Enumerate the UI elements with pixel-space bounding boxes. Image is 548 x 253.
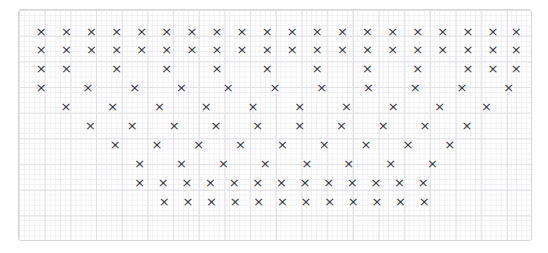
cross-x-marker: × bbox=[262, 43, 273, 56]
cross-x-marker: × bbox=[127, 119, 138, 132]
cross-x-marker: × bbox=[301, 194, 312, 207]
cross-x-marker: × bbox=[488, 43, 499, 56]
cross-x-marker: × bbox=[461, 119, 472, 132]
cross-x-marker: × bbox=[151, 137, 162, 150]
cross-x-marker: × bbox=[111, 62, 122, 75]
cross-x-marker: × bbox=[488, 24, 499, 37]
cross-x-marker: × bbox=[83, 81, 94, 94]
cross-x-marker: × bbox=[363, 81, 374, 94]
cross-x-marker: × bbox=[412, 43, 423, 56]
cross-x-marker: × bbox=[420, 119, 431, 132]
cross-x-marker: × bbox=[260, 156, 271, 169]
cross-x-marker: × bbox=[111, 43, 122, 56]
cross-x-marker: × bbox=[287, 24, 298, 37]
cross-x-marker: × bbox=[158, 175, 169, 188]
cross-x-marker: × bbox=[277, 194, 288, 207]
cross-x-marker: × bbox=[511, 24, 522, 37]
cross-x-marker: × bbox=[86, 43, 97, 56]
cross-x-marker: × bbox=[378, 119, 389, 132]
cross-x-marker: × bbox=[176, 156, 187, 169]
cross-x-marker: × bbox=[402, 137, 413, 150]
cross-x-marker: × bbox=[336, 119, 347, 132]
cross-x-marker: × bbox=[186, 24, 197, 37]
cross-x-marker: × bbox=[362, 62, 373, 75]
cross-x-marker: × bbox=[488, 62, 499, 75]
scatter-marker-layer: ××××××××××××××××××××××××××××××××××××××××… bbox=[19, 10, 531, 240]
cross-x-marker: × bbox=[134, 175, 145, 188]
cross-x-marker: × bbox=[186, 43, 197, 56]
cross-x-marker: × bbox=[437, 43, 448, 56]
cross-x-marker: × bbox=[161, 62, 172, 75]
cross-x-marker: × bbox=[387, 24, 398, 37]
cross-x-marker: × bbox=[201, 100, 212, 113]
cross-x-marker: × bbox=[437, 24, 448, 37]
cross-x-marker: × bbox=[388, 100, 399, 113]
cross-x-marker: × bbox=[348, 194, 359, 207]
cross-x-marker: × bbox=[387, 43, 398, 56]
cross-x-marker: × bbox=[181, 175, 192, 188]
cross-x-marker: × bbox=[385, 156, 396, 169]
cross-x-marker: × bbox=[229, 175, 240, 188]
cross-x-marker: × bbox=[457, 81, 468, 94]
cross-x-marker: × bbox=[161, 24, 172, 37]
cross-x-marker: × bbox=[262, 62, 273, 75]
cross-x-marker: × bbox=[169, 119, 180, 132]
cross-x-marker: × bbox=[110, 137, 121, 150]
cross-x-marker: × bbox=[36, 24, 47, 37]
plot-panel: ××××××××××××××××××××××××××××××××××××××××… bbox=[18, 9, 532, 241]
cross-x-marker: × bbox=[395, 194, 406, 207]
cross-x-marker: × bbox=[302, 156, 313, 169]
cross-x-marker: × bbox=[294, 100, 305, 113]
cross-x-marker: × bbox=[347, 175, 358, 188]
cross-x-marker: × bbox=[211, 43, 222, 56]
cross-x-marker: × bbox=[218, 156, 229, 169]
cross-x-marker: × bbox=[337, 24, 348, 37]
cross-x-marker: × bbox=[343, 156, 354, 169]
cross-x-marker: × bbox=[341, 100, 352, 113]
cross-x-marker: × bbox=[193, 137, 204, 150]
cross-x-marker: × bbox=[253, 194, 264, 207]
cross-x-marker: × bbox=[134, 156, 145, 169]
cross-x-marker: × bbox=[337, 43, 348, 56]
cross-x-marker: × bbox=[237, 24, 248, 37]
cross-x-marker: × bbox=[462, 43, 473, 56]
cross-x-marker: × bbox=[427, 156, 438, 169]
cross-x-marker: × bbox=[61, 24, 72, 37]
cross-x-marker: × bbox=[324, 194, 335, 207]
cross-x-marker: × bbox=[462, 24, 473, 37]
cross-x-marker: × bbox=[370, 175, 381, 188]
cross-x-marker: × bbox=[129, 81, 140, 94]
cross-x-marker: × bbox=[211, 24, 222, 37]
cross-x-marker: × bbox=[276, 175, 287, 188]
cross-x-marker: × bbox=[36, 43, 47, 56]
cross-x-marker: × bbox=[410, 81, 421, 94]
cross-x-marker: × bbox=[287, 43, 298, 56]
cross-x-marker: × bbox=[312, 43, 323, 56]
cross-x-marker: × bbox=[262, 24, 273, 37]
cross-x-marker: × bbox=[294, 119, 305, 132]
cross-x-marker: × bbox=[60, 100, 71, 113]
cross-x-marker: × bbox=[111, 24, 122, 37]
cross-x-marker: × bbox=[434, 100, 445, 113]
cross-x-marker: × bbox=[362, 43, 373, 56]
cross-x-marker: × bbox=[511, 43, 522, 56]
cross-x-marker: × bbox=[247, 100, 258, 113]
cross-x-marker: × bbox=[235, 137, 246, 150]
cross-x-marker: × bbox=[36, 62, 47, 75]
cross-x-marker: × bbox=[176, 81, 187, 94]
cross-x-marker: × bbox=[211, 119, 222, 132]
screenshot-root: ××××××××××××××××××××××××××××××××××××××××… bbox=[0, 0, 548, 253]
cross-x-marker: × bbox=[182, 194, 193, 207]
cross-x-marker: × bbox=[230, 194, 241, 207]
cross-x-marker: × bbox=[511, 62, 522, 75]
cross-x-marker: × bbox=[223, 81, 234, 94]
cross-x-marker: × bbox=[252, 119, 263, 132]
cross-x-marker: × bbox=[237, 43, 248, 56]
cross-x-marker: × bbox=[277, 137, 288, 150]
cross-x-marker: × bbox=[300, 175, 311, 188]
cross-x-marker: × bbox=[462, 62, 473, 75]
cross-x-marker: × bbox=[418, 175, 429, 188]
cross-x-marker: × bbox=[412, 62, 423, 75]
cross-x-marker: × bbox=[419, 194, 430, 207]
cross-x-marker: × bbox=[319, 137, 330, 150]
